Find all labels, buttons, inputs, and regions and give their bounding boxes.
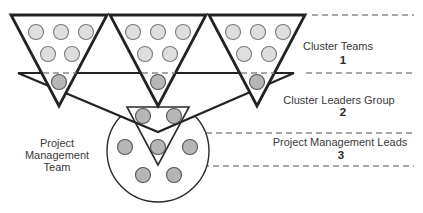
leader-icon (151, 75, 166, 90)
pm-team-label-line-2: Management (25, 149, 89, 161)
pm-member-icon (151, 140, 166, 155)
tier-2-label: Cluster Leaders Group (283, 94, 394, 106)
member-icon (65, 47, 80, 62)
member-icon (237, 47, 252, 62)
tier-3-number: 3 (338, 149, 344, 161)
pm-team-label: Project Management Team (25, 137, 89, 173)
member-icon (54, 25, 69, 40)
leader-icon (52, 75, 67, 90)
leader-icon (250, 75, 265, 90)
member-icon (276, 25, 291, 40)
member-icon (226, 25, 241, 40)
pm-member-icon (167, 168, 182, 183)
member-icon (138, 47, 153, 62)
member-icon (251, 25, 266, 40)
member-icon (126, 25, 141, 40)
pm-team-label-line-3: Team (44, 161, 71, 173)
member-icon (29, 25, 44, 40)
tier-1-label: Cluster Teams (303, 40, 374, 52)
member-icon (163, 47, 178, 62)
member-icon (176, 25, 191, 40)
pm-team-label-line-1: Project (40, 137, 74, 149)
tier-labels: Cluster Teams 1 Cluster Leaders Group 2 … (273, 40, 408, 161)
tier-3-label: Project Management Leads (273, 136, 408, 148)
pm-member-icon (136, 168, 151, 183)
pm-member-icon (167, 109, 182, 124)
member-icon (79, 25, 94, 40)
pm-member-icon (118, 140, 133, 155)
member-icon (151, 25, 166, 40)
member-icon (41, 47, 56, 62)
org-structure-diagram: Cluster Teams 1 Cluster Leaders Group 2 … (0, 0, 423, 213)
member-icon (262, 47, 277, 62)
pm-member-icon (183, 140, 198, 155)
tier-2-number: 2 (340, 106, 346, 118)
tier-1-number: 1 (340, 54, 347, 66)
pm-member-icon (136, 109, 151, 124)
